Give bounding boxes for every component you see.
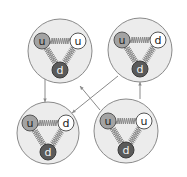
transition-arrow-bottom-right-to-top-right (138, 82, 141, 99)
quark-label: d (45, 146, 52, 159)
quark-label: d (57, 64, 64, 77)
quark-label: u (119, 34, 126, 47)
quark-label: u (105, 115, 112, 128)
hadron-top-right: udd (108, 18, 172, 82)
arrowhead (138, 82, 141, 86)
quark-label: d (123, 144, 130, 157)
quark-label: d (155, 34, 162, 47)
hadron-bottom-left: udd (17, 102, 79, 164)
quark-label: u (141, 115, 148, 128)
quark-label: u (27, 117, 34, 130)
hadron-bottom-right: uud (94, 99, 158, 163)
quark-label: u (75, 35, 82, 48)
hadron-top-left: uud (28, 19, 92, 83)
quark-transition-diagram: uududdudduud (0, 0, 187, 177)
transition-arrow-top-left-to-bottom-left (43, 79, 46, 102)
quark-label: d (137, 63, 144, 76)
transition-arrow-bottom-right-to-top-left (80, 86, 100, 110)
quark-label: d (63, 117, 70, 130)
arrowhead (43, 98, 46, 102)
quark-label: u (39, 35, 46, 48)
hadrons: uududdudduud (17, 18, 172, 164)
